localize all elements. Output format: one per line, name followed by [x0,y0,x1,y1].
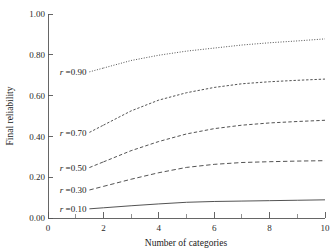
x-axis-title: Number of categories [145,238,228,248]
series-label-symbol: r [60,67,64,77]
series-curve [103,79,325,125]
y-axis-title: Final reliability [5,86,15,145]
x-tick-label: 10 [321,223,331,233]
series-label-value: =0.90 [66,67,87,77]
series-curve [103,161,325,187]
series-curve [103,39,325,68]
series-inline-label: r=0.90 [60,67,87,77]
y-tick-label: 0.80 [29,50,45,60]
series-label-leader [89,208,103,209]
series-label-leader [89,162,103,168]
series-label-leader [89,68,103,72]
series-inline-label: r=0.50 [60,163,87,173]
series-inline-label: r=0.70 [60,128,87,138]
series-label-leader [89,125,103,132]
series-label-value: =0.10 [66,204,87,214]
series-labels: r=0.90r=0.70r=0.50r=0.30r=0.10 [60,67,104,214]
y-tick-label: 0.60 [29,91,45,101]
x-tick-label: 8 [267,223,272,233]
x-tick-label: 4 [157,223,162,233]
x-tick-label: 6 [212,223,217,233]
x-axis-ticks: 0246810 [46,212,330,233]
axes-group [48,14,325,218]
series-inline-label: r=0.10 [60,204,87,214]
series-curves [103,39,325,208]
series-label-value: =0.50 [66,163,87,173]
x-tick-label: 2 [101,223,106,233]
series-label-symbol: r [60,128,64,138]
series-label-symbol: r [60,185,64,195]
y-tick-label: 0.40 [29,132,45,142]
series-label-symbol: r [60,163,64,173]
reliability-chart: 0.000.200.400.600.801.00 0246810 r=0.90r… [0,0,333,251]
series-label-leader [89,186,103,190]
chart-svg: 0.000.200.400.600.801.00 0246810 r=0.90r… [0,0,333,251]
y-tick-label: 0.20 [29,172,45,182]
series-label-value: =0.30 [66,185,87,195]
x-tick-label: 0 [46,223,51,233]
y-axis-ticks: 0.000.200.400.600.801.00 [29,9,53,223]
y-tick-label: 0.00 [29,213,45,223]
y-tick-label: 1.00 [29,9,45,19]
series-curve [103,200,325,208]
series-inline-label: r=0.30 [60,185,87,195]
series-label-value: =0.70 [66,128,87,138]
series-label-symbol: r [60,204,64,214]
series-curve [103,120,325,162]
